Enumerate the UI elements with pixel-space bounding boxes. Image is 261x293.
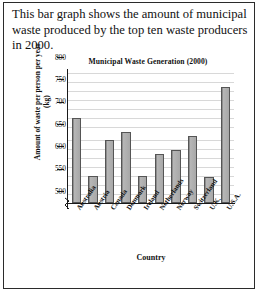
- bar-chart: Municipal Waste Generation (2000) 500550…: [10, 57, 252, 289]
- figure-frame: This bar graph shows the amount of munic…: [3, 2, 255, 289]
- x-axis-title: Country: [68, 253, 234, 262]
- bar-australia: [72, 118, 82, 203]
- bar-usa: [221, 87, 231, 203]
- chart-title: Municipal Waste Generation (2000): [48, 57, 248, 66]
- y-axis-title-box: Amount of waste per person per year (kg): [16, 79, 70, 205]
- y-axis-title: Amount of waste per person per year (kg): [34, 39, 51, 165]
